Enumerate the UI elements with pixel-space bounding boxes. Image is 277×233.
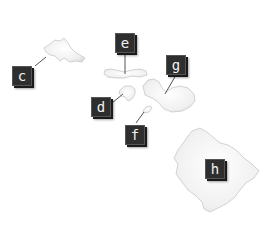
island-map: [0, 0, 277, 233]
leader-line-f: [136, 112, 144, 123]
island-c-oahu: [44, 38, 85, 62]
island-f-kahoolawe: [143, 106, 152, 113]
leader-line-c: [35, 57, 46, 66]
label-e: e: [115, 33, 135, 53]
leader-line-d: [112, 94, 123, 103]
label-g: g: [166, 55, 186, 75]
label-f: f: [125, 125, 145, 145]
label-d: d: [91, 97, 111, 117]
island-d-lanai: [119, 86, 135, 101]
label-c: c: [12, 66, 32, 86]
label-h: h: [205, 159, 225, 179]
